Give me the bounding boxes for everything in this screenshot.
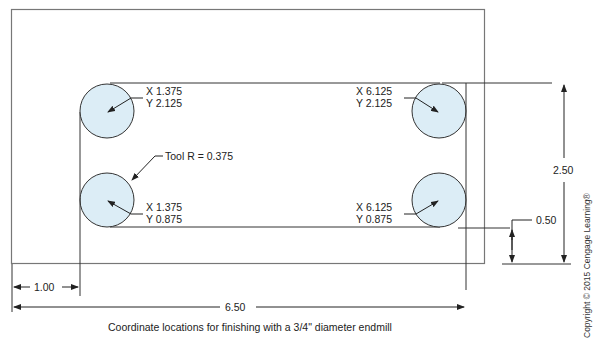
- point-br-x: X 6.125: [356, 201, 392, 213]
- tool-circle-top-left: [80, 84, 134, 138]
- figure-caption: Coordinate locations for finishing with …: [108, 321, 392, 333]
- point-bl-x: X 1.375: [146, 201, 182, 213]
- stock-outline: [12, 10, 485, 264]
- leader-lines: [108, 98, 438, 214]
- copyright-notice: Copyright © 2015 Cengage Learning®: [582, 192, 592, 338]
- tool-circle-bottom-left: [80, 173, 134, 227]
- tool-circle-top-right: [412, 84, 466, 138]
- dim-bottom-offset: [512, 220, 532, 262]
- point-bl-y: Y 0.875: [146, 213, 182, 225]
- point-tr-y: Y 2.125: [356, 97, 392, 109]
- tool-radius-label: Tool R = 0.375: [165, 150, 233, 162]
- dim-left-offset-label: 1.00: [34, 281, 55, 293]
- point-br-y: Y 0.875: [356, 213, 392, 225]
- tool-positions: [80, 84, 466, 227]
- tool-circle-bottom-right: [412, 173, 466, 227]
- point-tl-x: X 1.375: [146, 85, 182, 97]
- point-tl-y: Y 2.125: [146, 97, 182, 109]
- dim-total-width-label: 6.50: [225, 301, 246, 313]
- endmill-coordinate-drawing: X 1.375 Y 2.125 X 6.125 Y 2.125 X 1.375 …: [0, 0, 599, 345]
- point-tr-x: X 6.125: [356, 85, 392, 97]
- dim-bottom-offset-label: 0.50: [536, 214, 557, 226]
- dim-height-label: 2.50: [553, 164, 574, 176]
